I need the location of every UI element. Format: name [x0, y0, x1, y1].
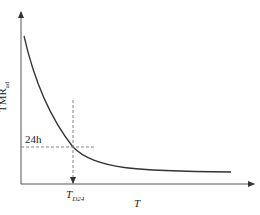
x-axis-label: T — [134, 197, 140, 209]
y-axis-label: TMRad — [0, 82, 11, 112]
y-marker-label: 24h — [25, 133, 42, 145]
decay-curve — [24, 36, 231, 172]
chart-canvas — [0, 0, 260, 215]
x-marker-label: TD24 — [66, 188, 84, 203]
